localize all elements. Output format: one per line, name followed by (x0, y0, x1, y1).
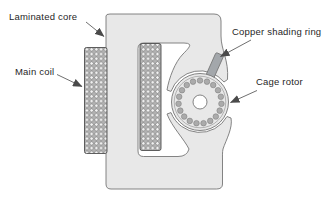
arrow-main-coil (57, 75, 82, 87)
rotor-bar (187, 118, 193, 124)
rotor-bar (179, 87, 185, 93)
motor-diagram: Laminated core Main coil Copper shading … (0, 0, 331, 197)
rotor-bar (181, 114, 187, 120)
arrow-cage-rotor (231, 91, 258, 103)
rotor-bar (213, 114, 219, 120)
rotor-bar (215, 87, 221, 93)
rotor-bar (176, 101, 182, 107)
rotor-bar (197, 78, 203, 84)
right-coil (140, 44, 161, 151)
rotor-shaft-hole (193, 95, 207, 109)
arrow-laminated-core (86, 22, 104, 37)
rotor-bar (204, 79, 210, 85)
rotor-bar (176, 94, 182, 100)
rotor-bar (210, 82, 216, 88)
rotor-bar (190, 79, 196, 85)
main-coil-label: Main coil (15, 66, 54, 77)
rotor-bar (194, 120, 200, 126)
copper-shading-ring-label: Copper shading ring (232, 26, 321, 37)
rotor-bar (178, 108, 184, 114)
rotor-bar (207, 118, 213, 124)
rotor-bar (201, 120, 207, 126)
rotor-bar (217, 108, 223, 114)
left-coil (85, 48, 108, 154)
laminated-core-label: Laminated core (9, 11, 77, 22)
rotor (172, 74, 229, 131)
cage-rotor-label: Cage rotor (256, 76, 303, 87)
arrow-copper-shading-ring (221, 40, 252, 57)
rotor-bar (218, 94, 224, 100)
rotor-bar (184, 82, 190, 88)
rotor-bar (219, 101, 225, 107)
